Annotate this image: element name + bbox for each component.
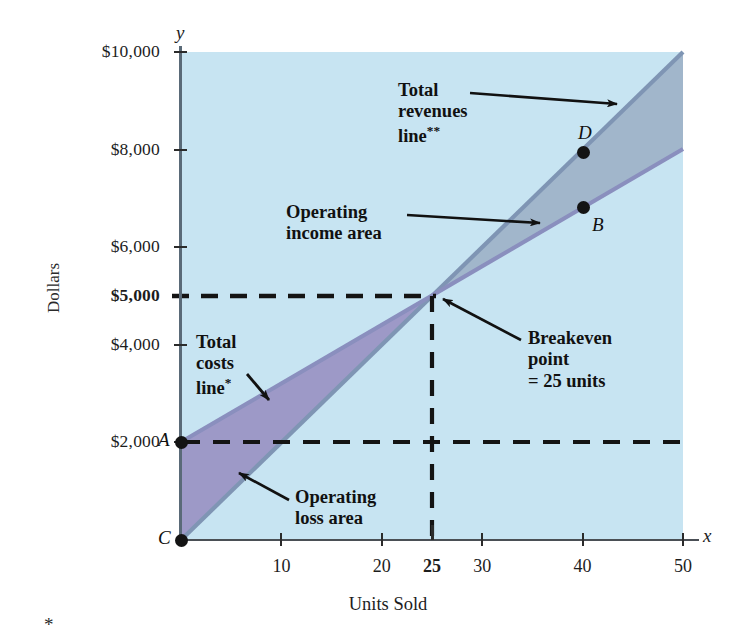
x-tick-label-50: 50: [653, 556, 713, 577]
x-tick-mark: [582, 533, 584, 546]
annotation-breakeven: Breakeven point = 25 units: [528, 328, 612, 392]
x-tick-label-40: 40: [553, 556, 613, 577]
operating-income-line2: income area: [286, 223, 382, 244]
total-costs-line1: Total: [196, 332, 236, 353]
x-tick-label-30: 30: [452, 556, 512, 577]
annotation-total-costs: Total costs line*: [196, 332, 236, 400]
y-tick-mark: [174, 51, 187, 53]
point-label-b: B: [592, 214, 604, 236]
total-costs-footnote-marker: *: [225, 375, 232, 390]
point-label-d: D: [578, 122, 592, 144]
y-tick-label-10000: $10,000: [0, 41, 160, 62]
y-tick-mark: [174, 246, 187, 248]
x-axis-title: Units Sold: [288, 594, 488, 615]
cvp-chart-figure: y x Dollars Units Sold $10,000$8,000$6,0…: [0, 0, 736, 638]
breakeven-line3: = 25 units: [528, 371, 612, 392]
y-tick-label-8000: $8,000: [0, 139, 160, 160]
x-tick-mark: [682, 533, 684, 546]
data-point-b: [577, 201, 590, 214]
x-tick-mark: [280, 533, 282, 546]
data-point-d: [577, 146, 590, 159]
point-label-a: A: [158, 429, 170, 451]
y-tick-label-2000: $2,000: [0, 431, 160, 452]
total-costs-line3: line*: [196, 375, 236, 400]
x-axis: [179, 539, 699, 541]
x-tick-mark: [381, 533, 383, 546]
y-tick-label-6000: $6,000: [0, 236, 160, 257]
operating-income-line1: Operating: [286, 202, 382, 223]
total-revenues-line2: revenues: [398, 101, 468, 122]
total-revenues-footnote-marker: **: [427, 123, 440, 138]
chart-canvas: [0, 0, 736, 638]
footnote-marker: *: [44, 614, 54, 636]
x-tick-mark: [431, 525, 434, 540]
total-costs-line2: costs: [196, 353, 236, 374]
data-point-a: [175, 436, 188, 449]
data-point-c: [175, 534, 188, 547]
breakeven-line1: Breakeven: [528, 328, 612, 349]
operating-loss-line1: Operating: [295, 487, 376, 508]
y-tick-mark: [172, 295, 189, 298]
y-tick-label-4000: $4,000: [0, 334, 160, 355]
point-label-c: C: [158, 527, 171, 549]
annotation-total-revenues: Total revenues line**: [398, 80, 468, 148]
x-tick-mark: [481, 533, 483, 546]
y-tick-mark: [174, 149, 187, 151]
annotation-operating-income: Operating income area: [286, 202, 382, 245]
operating-loss-line2: loss area: [295, 508, 376, 529]
x-tick-label-10: 10: [251, 556, 311, 577]
total-revenues-line1: Total: [398, 80, 468, 101]
y-axis-letter: y: [176, 22, 184, 44]
annotation-operating-loss: Operating loss area: [295, 487, 376, 530]
x-axis-letter: x: [703, 525, 711, 547]
y-tick-label-5000: $5,000: [0, 285, 160, 306]
y-tick-mark: [174, 344, 187, 346]
total-revenues-line3: line**: [398, 123, 468, 148]
breakeven-line2: point: [528, 349, 612, 370]
